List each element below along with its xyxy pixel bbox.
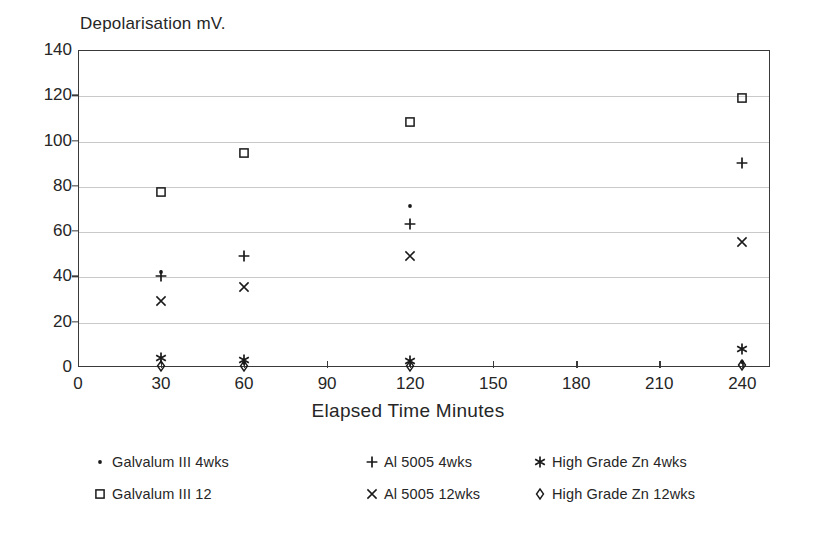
legend-marker-slot	[360, 454, 384, 470]
x-tick-mark-150	[493, 361, 494, 368]
x-axis-title: Elapsed Time Minutes	[0, 400, 816, 422]
legend-item[interactable]: Al 5005 4wks	[360, 454, 472, 470]
legend-marker-slot	[88, 486, 112, 502]
x-tick-mark-180	[576, 361, 577, 368]
x-tick-label-60: 60	[235, 374, 254, 394]
x-tick-mark-90	[327, 361, 328, 368]
marker-asterisk-icon	[532, 454, 548, 470]
x-tick-label-30: 30	[152, 374, 171, 394]
y-tick-mark-40	[72, 276, 79, 277]
y-tick-mark-60	[72, 230, 79, 231]
marker-open-square-icon	[93, 487, 107, 501]
marker-plus-icon	[364, 454, 380, 470]
x-tick-label-0: 0	[73, 374, 82, 394]
legend-marker-slot	[528, 486, 552, 502]
y-axis-title: Depolarisation mV.	[80, 14, 226, 34]
x-tick-label-210: 210	[645, 374, 673, 394]
legend-item-label: Galvalum III 4wks	[112, 454, 229, 470]
gridline-y-100	[79, 142, 769, 143]
legend-marker-slot	[360, 486, 384, 502]
legend-item-label: Galvalum III 12	[112, 486, 212, 502]
legend-item-label: Al 5005 12wks	[384, 486, 480, 502]
legend-item[interactable]: Galvalum III 4wks	[88, 454, 229, 470]
x-tick-mark-120	[410, 361, 411, 368]
marker-cross-icon	[364, 486, 380, 502]
y-tick-mark-80	[72, 185, 79, 186]
legend-item[interactable]: High Grade Zn 4wks	[528, 454, 687, 470]
chart-legend: Galvalum III 4wksGalvalum III 12Al 5005 …	[88, 450, 788, 512]
y-tick-label-140: 140	[44, 40, 72, 60]
y-tick-label-20: 20	[53, 312, 72, 332]
gridline-y-60	[79, 232, 769, 233]
marker-dot-icon	[95, 457, 105, 467]
legend-marker-slot	[88, 454, 112, 470]
legend-item-label: High Grade Zn 12wks	[552, 486, 695, 502]
chart-figure: Depolarisation mV. 020406080100120140 03…	[0, 0, 816, 535]
x-tick-label-150: 150	[479, 374, 507, 394]
plot-area	[78, 50, 770, 367]
x-tick-label-120: 120	[396, 374, 424, 394]
legend-marker-slot	[528, 454, 552, 470]
gridline-y-120	[79, 96, 769, 97]
y-tick-label-40: 40	[53, 266, 72, 286]
y-tick-label-120: 120	[44, 85, 72, 105]
legend-item[interactable]: Al 5005 12wks	[360, 486, 480, 502]
gridline-y-40	[79, 277, 769, 278]
y-tick-mark-120	[72, 95, 79, 96]
x-tick-label-180: 180	[562, 374, 590, 394]
y-tick-label-80: 80	[53, 176, 72, 196]
y-tick-label-60: 60	[53, 221, 72, 241]
x-tick-mark-210	[659, 361, 660, 368]
gridline-y-20	[79, 323, 769, 324]
legend-item-label: Al 5005 4wks	[384, 454, 472, 470]
y-tick-label-100: 100	[44, 131, 72, 151]
legend-item-label: High Grade Zn 4wks	[552, 454, 687, 470]
x-tick-mark-240	[742, 361, 743, 368]
x-tick-mark-60	[244, 361, 245, 368]
marker-open-diamond-icon	[533, 487, 547, 501]
x-tick-mark-30	[161, 361, 162, 368]
y-tick-mark-100	[72, 140, 79, 141]
legend-item[interactable]: High Grade Zn 12wks	[528, 486, 695, 502]
y-tick-label-0: 0	[63, 357, 72, 377]
y-tick-mark-20	[72, 321, 79, 322]
gridline-y-80	[79, 187, 769, 188]
x-tick-label-240: 240	[728, 374, 756, 394]
x-tick-label-90: 90	[318, 374, 337, 394]
legend-item[interactable]: Galvalum III 12	[88, 486, 212, 502]
